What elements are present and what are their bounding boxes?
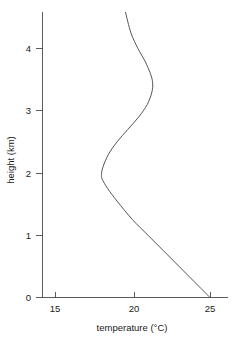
chart-canvas: 0 1 2 3 4 15 20 25 temperature (°C) heig… [0,0,242,349]
y-axis-ticks [36,49,43,298]
x-tick-label-25: 25 [205,303,216,314]
y-tick-label-2: 2 [26,168,31,179]
x-tick-label-20: 20 [129,303,140,314]
y-tick-label-1: 1 [26,230,31,241]
y-tick-label-0: 0 [26,292,31,303]
x-axis-title: temperature (°C) [97,322,168,333]
x-tick-label-15: 15 [50,303,61,314]
x-axis-ticks [55,292,210,298]
y-tick-label-4: 4 [26,43,31,54]
y-axis-tick-labels: 0 1 2 3 4 [26,43,31,303]
temperature-profile-curve [101,12,210,297]
y-axis-title: height (km) [5,136,16,184]
temperature-height-profile-chart: 0 1 2 3 4 15 20 25 temperature (°C) heig… [0,0,242,349]
x-axis-tick-labels: 15 20 25 [50,303,216,314]
y-tick-label-3: 3 [26,105,31,116]
